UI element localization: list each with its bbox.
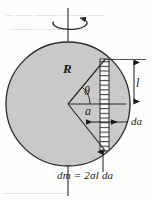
label-angle-theta: θ (84, 85, 90, 97)
label-mass-element-equation: dm = 2σl da (57, 170, 113, 181)
label-strip-width-da: da (131, 116, 142, 127)
label-distance-a: a (85, 105, 91, 117)
label-radius-R: R (63, 62, 72, 75)
label-half-height-l: l (136, 77, 139, 89)
figure-container: — —— ——— — —— —— ——— — ——— —— ———————— (0, 0, 154, 200)
rotation-direction-arrow (53, 18, 87, 29)
mass-element-strip (100, 59, 109, 151)
strip-hatched-rect (100, 59, 109, 151)
